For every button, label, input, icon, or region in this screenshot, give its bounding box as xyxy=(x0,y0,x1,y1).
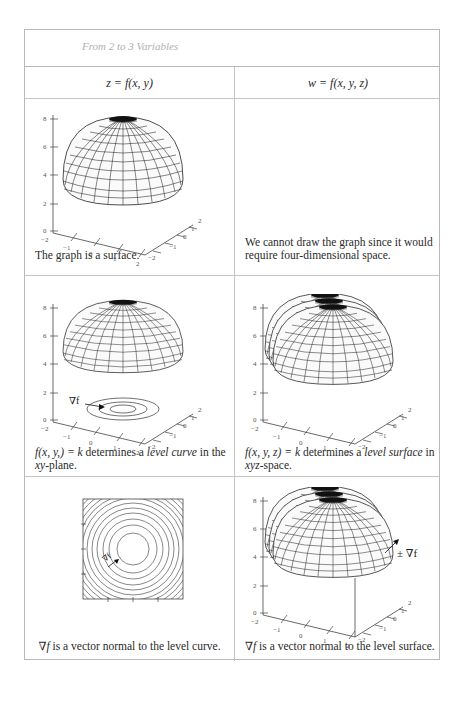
level-curve-figure: ∇f xyxy=(33,294,223,464)
column-header-two-variables: z = f(x, y) xyxy=(25,67,234,99)
table-row-level-sets: ∇f f(x, y,) = k determines a level curve… xyxy=(25,276,439,477)
level-surface-figure xyxy=(243,294,433,464)
cell-contour-gradient: ∇f ∇f is a vector normal to the level cu… xyxy=(25,477,234,661)
caption-level-curve: f(x, y,) = k determines a level curve in… xyxy=(35,446,228,472)
column-header-three-variables: w = f(x, y, z) xyxy=(235,67,441,99)
gradient-label: ∇f xyxy=(69,395,80,406)
column-header-row: z = f(x, y) w = f(x, y, z) xyxy=(25,67,439,99)
cell-level-curve: ∇f f(x, y,) = k determines a level curve… xyxy=(25,276,234,476)
level-surface-normal-figure: ± ∇f xyxy=(243,487,438,657)
caption-normal-to-curve: ∇f is a vector normal to the level curve… xyxy=(29,640,230,653)
cell-surface: The graph is a surface. xyxy=(25,99,234,275)
gradient-label: ± ∇f xyxy=(397,547,417,559)
cell-no-graph: We cannot draw the graph since it would … xyxy=(235,99,441,275)
caption-normal-to-surface: ∇f is a vector normal to the level surfa… xyxy=(245,640,435,653)
caption-level-surface: f(x, y, z) = k determines a level surfac… xyxy=(245,446,435,472)
cell-level-surface: f(x, y, z) = k determines a level surfac… xyxy=(235,276,441,476)
gradient-label: ∇f xyxy=(101,551,113,563)
table-row-gradient: ∇f ∇f is a vector normal to the level cu… xyxy=(25,477,439,661)
table-row-graph: The graph is a surface. We cannot draw t… xyxy=(25,99,439,276)
table-title: From 2 to 3 Variables xyxy=(82,40,178,52)
table-title-row: From 2 to 3 Variables xyxy=(25,30,439,67)
caption-surface: The graph is a surface. xyxy=(35,249,228,262)
caption-four-dimensional: We cannot draw the graph since it would … xyxy=(245,236,435,262)
cell-surface-gradient: ± ∇f ∇f is a vector normal to the level … xyxy=(235,477,441,661)
comparison-table: From 2 to 3 Variables z = f(x, y) w = f(… xyxy=(24,29,440,660)
contour-plot-figure: ∇f xyxy=(81,497,185,603)
